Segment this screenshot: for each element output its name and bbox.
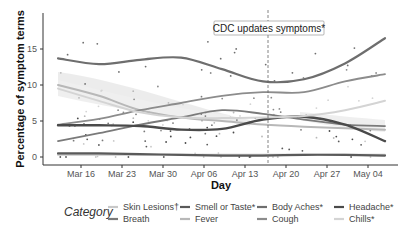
data-point xyxy=(165,141,167,143)
data-point xyxy=(118,71,120,73)
data-point xyxy=(144,140,146,142)
data-point xyxy=(78,97,80,99)
data-point xyxy=(354,47,356,49)
x-axis-title: Day xyxy=(211,179,232,191)
y-tick-label: 0 xyxy=(32,152,37,162)
data-point xyxy=(221,98,223,100)
data-point xyxy=(235,48,237,50)
data-point xyxy=(185,142,187,144)
data-point xyxy=(98,105,100,107)
data-point xyxy=(206,144,208,146)
data-point xyxy=(168,102,170,104)
data-point xyxy=(338,141,340,143)
data-point xyxy=(230,75,232,77)
data-point xyxy=(65,156,67,158)
series-line xyxy=(58,38,385,82)
annotation-label: CDC updates symptoms* xyxy=(213,23,325,34)
x-tick-label: Apr 06 xyxy=(191,169,218,179)
legend-item: Body Aches* xyxy=(257,202,324,212)
data-point xyxy=(352,138,354,140)
data-point xyxy=(59,156,61,158)
data-point xyxy=(329,130,331,132)
legend-item: Skin Lesions† xyxy=(108,202,179,212)
data-point xyxy=(115,156,117,158)
legend-label: Cough xyxy=(272,214,299,224)
y-axis-ticks: 051015 xyxy=(27,44,43,162)
data-point xyxy=(347,86,349,88)
data-point xyxy=(364,140,366,142)
data-point xyxy=(261,136,263,138)
legend-item: Headache* xyxy=(334,202,394,212)
data-point xyxy=(281,148,283,150)
data-point xyxy=(273,109,275,111)
data-point xyxy=(360,144,362,146)
data-point xyxy=(375,72,377,74)
data-point xyxy=(85,111,87,113)
data-point xyxy=(107,123,109,125)
x-tick-label: Mar 23 xyxy=(108,169,136,179)
data-point xyxy=(82,42,84,44)
data-point xyxy=(143,131,145,133)
legend-label: Chills* xyxy=(349,214,375,224)
legend-item: Smell or Taste* xyxy=(180,202,256,212)
data-point xyxy=(160,130,162,132)
x-tick-label: Mar 16 xyxy=(67,169,95,179)
data-point xyxy=(218,152,220,154)
data-point xyxy=(292,72,294,74)
x-tick-label: Apr 13 xyxy=(232,169,259,179)
data-point xyxy=(157,86,159,88)
data-point xyxy=(203,156,205,158)
legend-label: Fever xyxy=(195,214,218,224)
data-point xyxy=(300,129,302,131)
data-point xyxy=(250,103,252,105)
data-point xyxy=(220,58,222,60)
data-point xyxy=(280,111,282,113)
data-point xyxy=(270,97,272,99)
data-point xyxy=(146,146,148,148)
data-point xyxy=(347,65,349,67)
data-point xyxy=(67,54,69,56)
x-axis-ticks: Mar 16Mar 23Mar 30Apr 06Apr 13Apr 20Apr … xyxy=(67,165,383,179)
legend-item: Breath xyxy=(108,214,150,224)
data-point xyxy=(233,132,235,134)
data-point xyxy=(265,64,267,66)
data-point xyxy=(73,140,75,142)
data-point xyxy=(350,156,352,158)
symptom-line-chart: 051015 Mar 16Mar 23Mar 30Apr 06Apr 13Apr… xyxy=(0,0,415,239)
data-point xyxy=(132,117,134,119)
data-point xyxy=(302,150,304,152)
legend: Category Skin Lesions†Smell or Taste*Bod… xyxy=(64,202,394,224)
data-point xyxy=(204,133,206,135)
data-point xyxy=(335,136,337,138)
data-point xyxy=(327,99,329,101)
data-point xyxy=(96,43,98,45)
data-point xyxy=(316,137,318,139)
data-point xyxy=(210,72,212,74)
data-point xyxy=(279,108,281,110)
data-point xyxy=(201,69,203,71)
data-point xyxy=(132,90,134,92)
data-point xyxy=(346,69,348,71)
data-point xyxy=(288,149,290,151)
data-point xyxy=(206,127,208,129)
data-point xyxy=(239,115,241,117)
data-point xyxy=(253,97,255,99)
legend-item: Chills* xyxy=(334,214,375,224)
legend-label: Headache* xyxy=(349,202,394,212)
data-point xyxy=(147,120,149,122)
legend-item: Cough xyxy=(257,214,299,224)
y-tick-label: 15 xyxy=(27,44,37,54)
data-point xyxy=(205,115,207,117)
data-point xyxy=(211,124,213,126)
data-point xyxy=(219,133,221,135)
data-point xyxy=(102,140,104,142)
data-point xyxy=(83,143,85,145)
data-point xyxy=(372,97,374,99)
data-point xyxy=(236,119,238,121)
data-point xyxy=(132,121,134,123)
data-point xyxy=(207,41,209,43)
data-point xyxy=(98,144,100,146)
legend-label: Body Aches* xyxy=(272,202,324,212)
x-tick-label: Apr 20 xyxy=(273,169,300,179)
data-point xyxy=(100,90,102,92)
